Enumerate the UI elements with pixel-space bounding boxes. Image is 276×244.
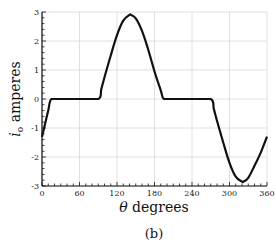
svg-text:io amperes: io amperes — [7, 61, 25, 136]
y-tick-label: 0 — [34, 95, 39, 104]
y-tick-label: -2 — [31, 153, 39, 162]
x-tick-label: 120 — [109, 189, 124, 198]
y-tick-label: 1 — [34, 66, 39, 75]
y-tick-label: -1 — [31, 124, 39, 133]
y-tick-label: 3 — [34, 8, 39, 17]
x-tick-label: 300 — [222, 189, 237, 198]
x-tick-label: 60 — [74, 189, 84, 198]
x-tick-label: 180 — [147, 189, 162, 198]
tick-labels: 060120180240300360-3-2-10123 — [31, 8, 274, 198]
x-axis-label: θ degrees — [119, 199, 189, 215]
x-tick-label: 360 — [259, 189, 274, 198]
y-tick-label: 2 — [34, 37, 39, 46]
y-tick-label: -3 — [31, 182, 39, 191]
y-axis-label: io amperes — [7, 61, 25, 136]
figure-caption: (b) — [145, 226, 163, 241]
x-tick-label: 240 — [184, 189, 199, 198]
current-waveform-chart: 060120180240300360-3-2-10123 θ degrees i… — [0, 0, 276, 244]
x-tick-label: 0 — [39, 189, 44, 198]
